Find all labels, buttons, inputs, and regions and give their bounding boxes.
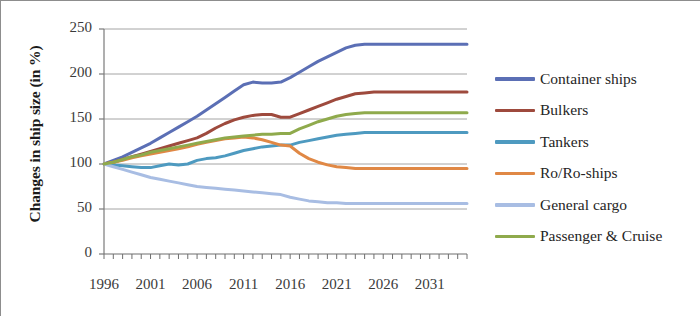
legend-color-swatch [495, 203, 535, 207]
legend-color-swatch [495, 140, 535, 144]
legend-color-swatch [495, 172, 535, 176]
legend-label: Tankers [540, 133, 589, 151]
y-tick-label: 100 [46, 154, 92, 171]
y-tick-label: 150 [46, 109, 92, 126]
legend-item-2[interactable]: Tankers [495, 126, 699, 158]
y-tick-label: 250 [46, 19, 92, 36]
legend-label: Container ships [540, 70, 637, 88]
x-tick-label: 2026 [358, 276, 408, 293]
chart-figure: Changes in ship size (in %) 050100150200… [0, 0, 700, 316]
legend-color-swatch [495, 235, 535, 239]
legend-item-1[interactable]: Bulkers [495, 95, 699, 127]
x-tick-label: 2031 [405, 276, 455, 293]
y-tick-label: 200 [46, 64, 92, 81]
legend-item-0[interactable]: Container ships [495, 63, 699, 95]
y-tick-label: 0 [46, 244, 92, 261]
x-tick-label: 2016 [265, 276, 315, 293]
legend-item-3[interactable]: Ro/Ro-ships [495, 158, 699, 190]
legend-item-4[interactable]: General cargo [495, 189, 699, 221]
x-tick-label: 2006 [172, 276, 222, 293]
legend-item-5[interactable]: Passenger & Cruise [495, 221, 699, 253]
x-tick-label: 2001 [126, 276, 176, 293]
x-tick-label: 2021 [312, 276, 362, 293]
legend-color-swatch [495, 109, 535, 113]
y-tick-label: 50 [46, 199, 92, 216]
legend-color-swatch [495, 77, 535, 81]
y-major-ticks [99, 29, 104, 254]
x-tick-label: 1996 [79, 276, 129, 293]
legend-label: Bulkers [540, 101, 588, 119]
legend-label: General cargo [540, 196, 627, 214]
chart-legend: Container shipsBulkersTankersRo/Ro-ships… [495, 63, 699, 252]
legend-label: Ro/Ro-ships [540, 164, 618, 182]
data-series-group [104, 44, 467, 203]
x-tick-label: 2011 [219, 276, 269, 293]
x-minor-ticks [104, 254, 467, 259]
gridlines [104, 29, 467, 254]
legend-label: Passenger & Cruise [540, 227, 662, 245]
